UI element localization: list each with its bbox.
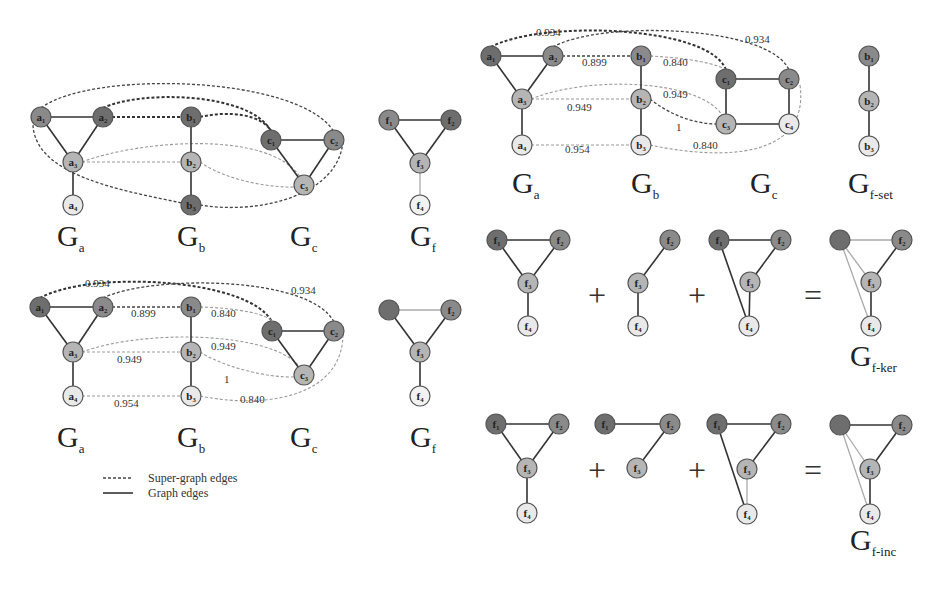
graph-name-label: Gf-inc [850, 523, 896, 559]
graph-name-label: Gf-set [848, 166, 893, 202]
edge-weight-label: 0.934 [85, 277, 110, 289]
node-label: c₁ [268, 325, 276, 337]
node-label: f₄ [417, 199, 425, 211]
node-label: f₄ [635, 320, 643, 332]
graph-node: f₄ [410, 195, 430, 215]
legend-graph-label: Graph edges [148, 486, 209, 500]
graph-node: a₄ [512, 135, 532, 155]
node-label: b₃ [186, 199, 196, 211]
graph-node: f₃ [628, 273, 648, 293]
operators-layer: ++=++= [588, 277, 822, 488]
graph-name-label: Gb [631, 166, 659, 202]
node-label: f₁ [714, 418, 721, 430]
edge-weight-label: 0.840 [211, 307, 236, 319]
graph-node: f₁ [595, 414, 615, 434]
node-label: f₂ [667, 234, 675, 246]
edge-weight-label: 0.840 [240, 393, 265, 405]
node-label: f₃ [868, 276, 876, 288]
graph-node: f₃ [518, 273, 538, 293]
node-label: b₂ [636, 93, 646, 105]
node-label: f₁ [716, 234, 723, 246]
edge-weight-label: 0.899 [582, 56, 607, 68]
node-label: f₄ [524, 507, 532, 519]
node-label: f₄ [746, 320, 754, 332]
node-label: f₄ [744, 508, 752, 520]
node-label: f₃ [747, 276, 755, 288]
edge-weight-label: 0.899 [131, 307, 156, 319]
equals-operator: = [804, 277, 822, 313]
graph-node: a₃ [63, 152, 83, 172]
graph-node [830, 230, 850, 250]
plus-operator: + [688, 452, 706, 488]
graph-node: c₂ [779, 69, 799, 89]
graph-node: f₄ [737, 504, 757, 524]
legend: Super-graph edges Graph edges [103, 471, 238, 500]
node-label: a₄ [69, 199, 79, 211]
graph-node: f₂ [441, 300, 461, 320]
node-label: a₁ [37, 111, 46, 123]
node-label: f₄ [868, 320, 876, 332]
graph-node: b₃ [181, 386, 201, 406]
equals-operator: = [804, 452, 822, 488]
edge-weight-label: 0.949 [567, 101, 592, 113]
graph-node: f₂ [550, 230, 570, 250]
graph-node: f₃ [860, 459, 880, 479]
graph-node: c₄ [779, 114, 799, 134]
node-label: f₂ [899, 234, 907, 246]
graph-node: a₂ [93, 107, 113, 127]
graph-node: a₄ [63, 386, 83, 406]
graph-name-label: Ga [57, 219, 85, 255]
node-label: c₂ [330, 325, 339, 337]
graph-node: a₂ [93, 297, 113, 317]
graph-matching-figure: a₁a₂a₃a₄b₁b₂b₃c₁c₂c₃f₁f₂f₃f₄a₁a₂a₃a₄b₁b₂… [0, 0, 937, 594]
node-label: a₂ [99, 111, 109, 123]
node-label: a₄ [69, 390, 79, 402]
graph-node: b₁ [859, 46, 879, 66]
graph-node: f₃ [410, 342, 430, 362]
graph-node: f₁ [486, 414, 506, 434]
node-label: b₃ [636, 139, 646, 151]
node-label: b₁ [636, 50, 645, 62]
node-label: b₁ [186, 301, 195, 313]
graph-node: f₄ [739, 316, 759, 336]
node-label: b₂ [186, 346, 196, 358]
node-label: f₄ [525, 320, 533, 332]
node-label: c₁ [267, 134, 275, 146]
node-label: f₁ [386, 114, 393, 126]
graph-name-label: Gc [290, 420, 318, 456]
node-label: c₃ [300, 369, 309, 381]
graph-node: f₂ [660, 414, 680, 434]
graph-node: f₁ [709, 230, 729, 250]
graph-edges-layer [40, 56, 902, 514]
graph-name-label: Gf-ker [850, 339, 898, 375]
graph-node: f₄ [861, 316, 881, 336]
graph-node: f₃ [627, 458, 647, 478]
graph-node: a₁ [481, 46, 501, 66]
node-label: a₃ [69, 346, 79, 358]
graph-name-label: Gb [177, 420, 205, 456]
graph-node: f₁ [707, 414, 727, 434]
graph-node: b₁ [631, 46, 651, 66]
edge-weight-label: 0.934 [291, 284, 316, 296]
node-label: f₃ [744, 463, 752, 475]
node-label: b₂ [186, 156, 196, 168]
node-label: c₂ [785, 73, 794, 85]
node-label: c₂ [330, 134, 339, 146]
edge-weight-label: 1 [224, 373, 230, 385]
graph-name-label: Ga [57, 420, 85, 456]
node-label: f₄ [417, 390, 425, 402]
legend-super-graph-label: Super-graph edges [148, 471, 238, 485]
node-label: a₂ [549, 50, 559, 62]
node-label: f₃ [634, 462, 642, 474]
graph-labels-layer: GaGbGcGfGaGbGcGfGaGbGcGf-setGf-kerGf-inc [57, 166, 898, 559]
node-label: b₃ [186, 390, 196, 402]
graph-node: a₄ [63, 195, 83, 215]
edge-weight-label: 0.840 [693, 139, 718, 151]
graph-name-label: Ga [512, 166, 540, 202]
graph-name-label: Gf [410, 219, 437, 255]
node-circle [830, 415, 850, 435]
edge-weight-label: 0.840 [663, 56, 688, 68]
graph-node: f₂ [549, 414, 569, 434]
graph-node: a₃ [512, 89, 532, 109]
graph-node: f₃ [737, 459, 757, 479]
